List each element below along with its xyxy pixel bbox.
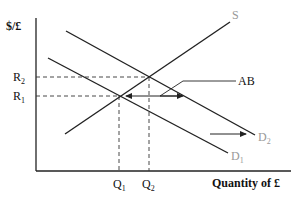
d2-label: D2 bbox=[258, 130, 271, 146]
y-axis-label: $/£ bbox=[6, 19, 21, 33]
diagram-canvas: $/£ Quantity of £ R2 R1 Q1 Q2 S D1 D2 AB bbox=[0, 0, 304, 201]
supply-curve bbox=[65, 22, 230, 134]
q1-label: Q1 bbox=[113, 177, 126, 193]
q2-label: Q2 bbox=[142, 177, 155, 193]
r1-label: R1 bbox=[13, 89, 25, 105]
x-axis-label: Quantity of £ bbox=[212, 176, 280, 190]
d1-label: D1 bbox=[231, 149, 244, 165]
ab-label: AB bbox=[238, 74, 255, 88]
ab-leader-line bbox=[160, 81, 236, 96]
r2-label: R2 bbox=[13, 70, 25, 86]
supply-label: S bbox=[232, 8, 239, 22]
